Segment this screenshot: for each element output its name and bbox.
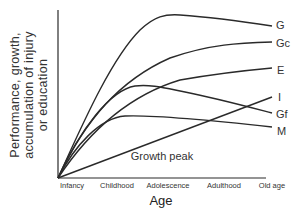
y-axis-label: Performance, growth, accumulation of inj… bbox=[6, 10, 52, 180]
series-label-e: E bbox=[277, 64, 284, 76]
series-label-i: I bbox=[278, 91, 281, 103]
x-tick-adulthood: Adulthood bbox=[207, 181, 241, 190]
y-axis-label-line-2: accumulation of injury bbox=[22, 10, 36, 180]
series-label-g: G bbox=[276, 19, 285, 31]
x-axis-label: Age bbox=[149, 193, 172, 208]
curve-m bbox=[58, 116, 272, 178]
x-tick-adolescence: Adolescence bbox=[147, 181, 190, 190]
x-tick-infancy: Infancy bbox=[60, 181, 84, 190]
x-tick-childhood: Childhood bbox=[100, 181, 134, 190]
series-label-m: M bbox=[277, 125, 286, 137]
series-label-gc: Gc bbox=[276, 37, 290, 49]
growth-peak-annotation: Growth peak bbox=[131, 150, 193, 162]
series-label-gf: Gf bbox=[276, 108, 288, 120]
y-axis-label-line-1: Performance, growth, bbox=[8, 10, 22, 180]
y-axis-label-line-3: or education bbox=[36, 10, 50, 180]
x-tick-old-age: Old age bbox=[259, 181, 285, 190]
curve-gf bbox=[58, 85, 272, 178]
lifespan-chart: Performance, growth, accumulation of inj… bbox=[0, 0, 300, 220]
